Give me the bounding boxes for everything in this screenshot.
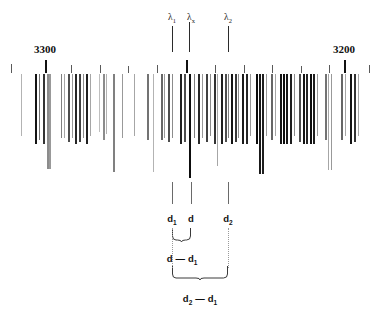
- spectral-line: [250, 74, 251, 136]
- spectral-line: [21, 74, 22, 136]
- spectral-line: [266, 74, 267, 136]
- spectral-line: [106, 74, 107, 134]
- spectral-line: [275, 74, 276, 136]
- spectral-line: [235, 74, 237, 142]
- scale-tick: [244, 65, 245, 73]
- spectral-line: [194, 74, 195, 138]
- spectral-line: [61, 74, 62, 138]
- scale-tick: [157, 65, 158, 73]
- spectral-line: [99, 74, 100, 132]
- scale-tick: [11, 64, 12, 73]
- scale-tick: [272, 65, 273, 73]
- spectral-line: [164, 74, 165, 138]
- spectral-line: [299, 74, 301, 142]
- scale-tick: [301, 66, 302, 73]
- d-subscript: 2: [229, 219, 233, 226]
- spectral-line: [306, 74, 308, 144]
- spectral-line: [202, 74, 203, 138]
- spectral-line: [225, 74, 227, 142]
- spectral-line: [103, 74, 105, 140]
- scale-tick: [45, 60, 47, 73]
- brace-minus-sign: —: [175, 253, 185, 264]
- spectral-line: [283, 74, 285, 144]
- d-glyph: d: [188, 213, 194, 224]
- spectral-line: [147, 74, 149, 140]
- spectral-line: [113, 74, 115, 172]
- lambda-subscript: x: [192, 17, 195, 24]
- brace-guide-rule: [228, 228, 229, 268]
- lambda-subscript: 1: [173, 17, 176, 24]
- spectral-line: [122, 74, 123, 138]
- scale-tick: [369, 65, 370, 73]
- brace-shape: [172, 266, 228, 280]
- brace-guide-rule: [172, 228, 173, 268]
- spectral-line: [153, 74, 154, 172]
- spectral-line: [161, 74, 163, 140]
- scale-tick: [100, 65, 101, 73]
- lower-pointer-rule: [228, 182, 229, 204]
- spectral-line: [331, 74, 332, 170]
- spectral-line: [317, 74, 318, 136]
- spectral-line: [90, 74, 91, 136]
- lambda-subscript: 2: [229, 17, 232, 24]
- upper-pointer-rule: [189, 22, 190, 52]
- spectral-line: [328, 74, 329, 170]
- spectral-line: [221, 74, 223, 144]
- spectral-line: [294, 74, 295, 136]
- spectral-line: [256, 74, 258, 144]
- spectral-line: [43, 74, 45, 144]
- scale-tick: [71, 65, 72, 73]
- spectral-line: [341, 74, 343, 140]
- spectral-line: [79, 74, 81, 142]
- spectral-line: [68, 74, 70, 142]
- spectral-line: [39, 74, 40, 140]
- spectral-line: [228, 74, 229, 138]
- spectral-line: [35, 74, 37, 144]
- brace-shape: [172, 228, 191, 242]
- spectral-line: [286, 74, 288, 144]
- scale-tick: [344, 60, 346, 73]
- spectral-line: [180, 74, 182, 144]
- spectral-line: [345, 74, 346, 136]
- spectral-line: [310, 74, 312, 144]
- spectral-line: [280, 74, 282, 144]
- spectral-line: [325, 74, 327, 140]
- measurement-brace: [172, 266, 228, 280]
- spectral-line: [75, 74, 77, 144]
- measurement-brace: [172, 228, 191, 242]
- spectral-line: [49, 74, 51, 169]
- spectral-line: [168, 74, 170, 142]
- spectral-line: [210, 74, 211, 136]
- lower-pointer-rule: [191, 182, 192, 204]
- brace-term-b-subscript: 1: [214, 299, 218, 306]
- scale-tick: [329, 65, 330, 73]
- spectrum-strip: [0, 74, 378, 178]
- spectral-line: [72, 74, 73, 138]
- spectral-line: [189, 74, 191, 178]
- spectral-line: [83, 74, 84, 138]
- spectral-line: [354, 74, 356, 142]
- brace-label: d2—d1: [183, 294, 217, 306]
- scale-tick: [186, 60, 188, 73]
- spectral-line: [259, 74, 261, 174]
- spectral-line: [313, 74, 315, 144]
- spectral-line: [238, 74, 239, 138]
- spectral-line: [206, 74, 208, 142]
- brace-term-a-subscript: 2: [189, 299, 193, 306]
- distance-label-d2: d2: [223, 214, 232, 226]
- spectral-line: [198, 74, 200, 144]
- spectral-line: [134, 74, 135, 136]
- spectral-line: [184, 74, 186, 142]
- spectral-line: [217, 74, 218, 166]
- spectral-line: [172, 74, 173, 138]
- spectral-line: [358, 74, 359, 136]
- spectral-line: [64, 74, 65, 138]
- scale-label-3200: 3200: [333, 44, 355, 55]
- spectral-line: [303, 74, 305, 144]
- d-subscript: 1: [173, 219, 177, 226]
- distance-label-d1: d1: [167, 214, 176, 226]
- wavelength-label-lambda-2: λ2: [224, 13, 232, 24]
- spectral-line: [231, 74, 233, 144]
- spectral-line: [262, 74, 264, 174]
- scale-label-3300: 3300: [34, 44, 56, 55]
